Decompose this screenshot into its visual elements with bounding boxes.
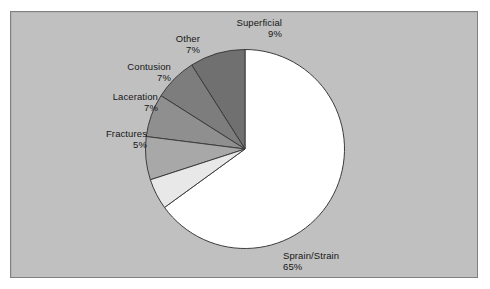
pie-label-fractures-value: 5% <box>62 139 147 150</box>
pie-label-sprain-strain-name: Sprain/Strain <box>283 250 393 261</box>
pie-label-other-value: 7% <box>126 44 200 55</box>
pie-label-laceration-value: 7% <box>72 102 158 113</box>
pie-label-contusion-value: 7% <box>84 72 171 83</box>
pie-chart-figure: Superficial 9% Other 7% Contusion 7% Lac… <box>0 0 490 289</box>
pie-label-laceration: Laceration 7% <box>72 91 158 113</box>
pie-label-contusion-name: Contusion <box>84 61 171 72</box>
pie-label-other-name: Other <box>126 33 200 44</box>
pie-label-superficial-name: Superficial <box>196 17 282 28</box>
pie-label-fractures-name: Fractures <box>62 128 147 139</box>
pie-label-fractures: Fractures 5% <box>62 128 147 150</box>
pie-label-contusion: Contusion 7% <box>84 61 171 83</box>
pie-label-sprain-strain-value: 65% <box>283 261 393 272</box>
pie-slices-group <box>145 50 344 249</box>
pie-label-superficial-value: 9% <box>196 28 282 39</box>
pie-label-superficial: Superficial 9% <box>196 17 282 39</box>
pie-label-laceration-name: Laceration <box>72 91 158 102</box>
pie-label-other: Other 7% <box>126 33 200 55</box>
pie-label-sprain-strain: Sprain/Strain 65% <box>283 250 393 272</box>
